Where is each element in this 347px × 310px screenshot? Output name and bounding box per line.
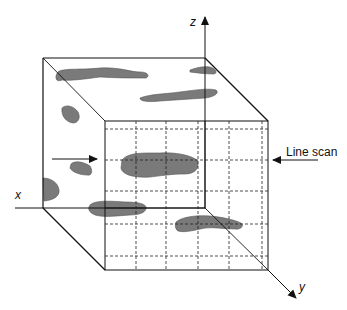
inclusion-front-left xyxy=(89,201,146,216)
inclusions xyxy=(43,67,242,232)
line-scan-grid xyxy=(105,121,268,270)
inclusion-left-edge xyxy=(43,178,59,201)
inclusion-left-small xyxy=(70,162,92,175)
x-axis-label: x xyxy=(15,188,21,202)
inclusion-left-blob xyxy=(62,106,79,123)
inclusion-front-center xyxy=(121,153,198,177)
y-axis-label: y xyxy=(299,280,305,294)
inclusion-mid-top xyxy=(140,89,217,101)
z-axis-label: z xyxy=(190,15,196,29)
line-scan-label: Line scan xyxy=(286,145,337,159)
y-axis xyxy=(268,270,296,298)
inclusion-top-long xyxy=(56,68,148,81)
inclusion-top-right xyxy=(190,67,216,74)
